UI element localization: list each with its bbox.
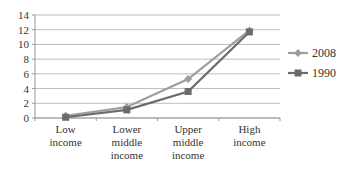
x-category-label: Uppermiddleincome — [172, 123, 204, 161]
line-chart: 02468101214 LowincomeLowermiddleincomeUp… — [0, 0, 350, 169]
y-tick-label: 10 — [18, 38, 30, 50]
legend-label: 1990 — [312, 66, 336, 80]
x-category-label: Lowincome — [49, 123, 81, 148]
y-tick-label: 2 — [24, 97, 30, 109]
y-tick-label: 0 — [24, 112, 30, 124]
legend-square-icon — [295, 70, 302, 77]
square-marker-icon — [246, 28, 253, 35]
y-axis-ticks: 02468101214 — [18, 9, 35, 124]
y-tick-label: 14 — [18, 9, 30, 21]
gridlines — [35, 15, 280, 118]
y-tick-label: 6 — [24, 68, 30, 80]
legend-diamond-icon — [294, 49, 302, 57]
y-tick-label: 8 — [24, 53, 30, 65]
y-tick-label: 12 — [18, 24, 29, 36]
square-marker-icon — [62, 114, 69, 121]
legend: 20081990 — [288, 46, 336, 80]
y-tick-label: 4 — [24, 83, 30, 95]
legend-label: 2008 — [312, 46, 336, 60]
square-marker-icon — [123, 106, 130, 113]
x-category-label: Lowermiddleincome — [111, 123, 143, 161]
x-category-label: Highincome — [233, 123, 265, 148]
x-axis: LowincomeLowermiddleincomeUppermiddleinc… — [35, 118, 280, 161]
square-marker-icon — [185, 88, 192, 95]
